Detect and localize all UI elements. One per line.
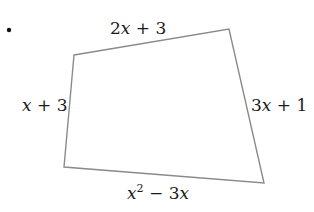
side-label-bottom: x2 − 3x [127,182,189,203]
bullet-icon [7,28,11,32]
side-label-left: x + 3 [22,95,67,115]
side-label-right: 3x + 1 [251,95,307,115]
quadrilateral-diagram: 2x + 3 x + 3 3x + 1 x2 − 3x [0,0,314,212]
side-label-top: 2x + 3 [110,18,166,38]
quadrilateral-shape [64,29,264,183]
